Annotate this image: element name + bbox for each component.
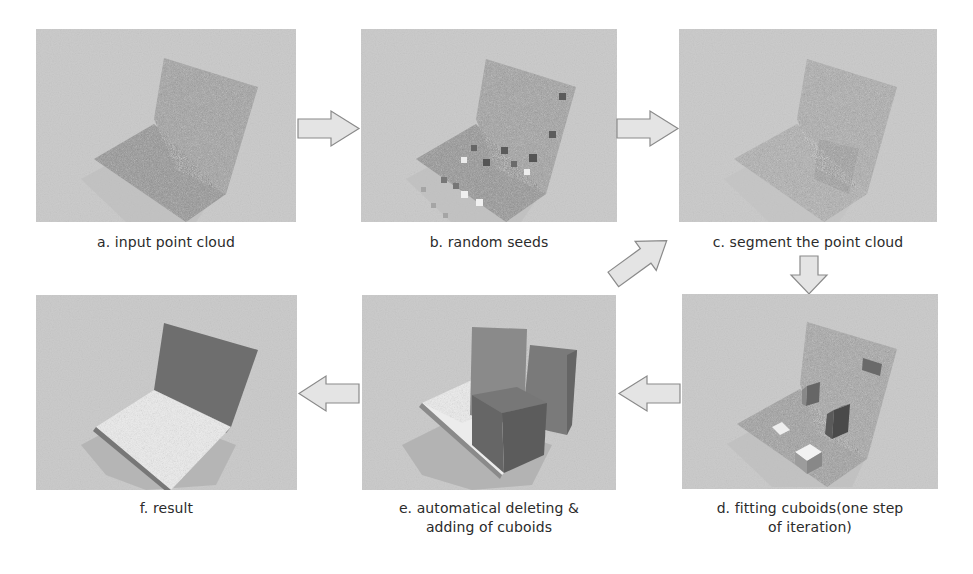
arrow-left-icon: [618, 375, 681, 412]
panel-f-result: [36, 295, 297, 490]
chair-seeds-image: [361, 29, 617, 222]
panel-e-deleting-adding-cuboids: [362, 295, 616, 490]
arrow-up-right-icon: [605, 232, 675, 288]
caption-a: a. input point cloud: [36, 233, 296, 252]
arrow-left-icon: [298, 375, 360, 412]
caption-e-line1: e. automatical deleting &: [362, 499, 616, 518]
caption-d: d. fitting cuboids(one step of iteration…: [682, 499, 938, 537]
panel-c-segment-point-cloud: [679, 29, 937, 222]
caption-d-line2: of iteration): [682, 518, 938, 537]
chair-cuboids-overlap-image: [362, 295, 616, 490]
panel-a-input-point-cloud: [36, 29, 296, 222]
panel-d-fitting-cuboids: [682, 294, 938, 489]
arrow-right-icon: [297, 110, 360, 147]
chair-segmented-image: [679, 29, 937, 222]
caption-d-line1: d. fitting cuboids(one step: [682, 499, 938, 518]
caption-e: e. automatical deleting & adding of cubo…: [362, 499, 616, 537]
caption-c: c. segment the point cloud: [679, 233, 937, 252]
chair-result-image: [36, 295, 297, 490]
arrow-down-icon: [790, 255, 828, 295]
caption-e-line2: adding of cuboids: [362, 518, 616, 537]
caption-f: f. result: [36, 499, 297, 518]
arrow-right-icon: [616, 110, 679, 147]
chair-point-cloud-image: [36, 29, 296, 222]
chair-fitted-cuboids-image: [682, 294, 938, 489]
panel-b-random-seeds: [361, 29, 617, 222]
caption-b: b. random seeds: [361, 233, 617, 252]
